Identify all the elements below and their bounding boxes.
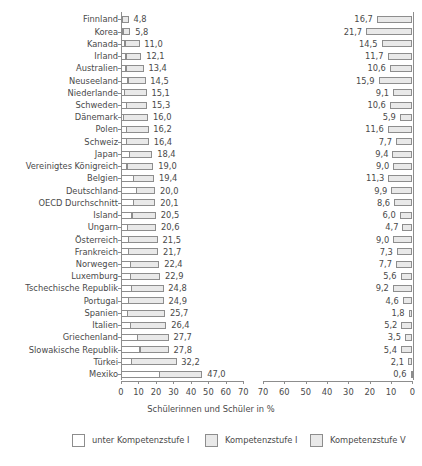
bar-value-label-right: 6,0 xyxy=(362,209,396,221)
chart-row: Türkei32,22,1 xyxy=(0,356,422,368)
bar-value-label-right: 21,7 xyxy=(328,26,362,38)
bar-segment-level-1 xyxy=(127,310,165,317)
bar-segment-level-1 xyxy=(131,285,164,292)
bar-segment-level-1 xyxy=(131,358,176,365)
category-label: Deutschland xyxy=(0,185,118,197)
bar-level-5 xyxy=(377,16,413,23)
bar-value-label-left: 32,2 xyxy=(181,356,199,368)
chart-row: Finnland4,816,7 xyxy=(0,13,422,25)
bar-segment-level-1 xyxy=(124,89,147,96)
category-label: Luxemburg xyxy=(0,270,118,282)
bar-level-5 xyxy=(393,89,412,96)
chart-row: Österreich21,59,0 xyxy=(0,234,422,246)
bar-value-label-left: 20,5 xyxy=(161,209,179,221)
bar-value-label-left: 19,4 xyxy=(159,172,177,184)
bar-segment-under-level-1 xyxy=(121,371,160,378)
bar-value-label-left: 15,1 xyxy=(151,87,169,99)
bar-value-label-left: 13,4 xyxy=(148,62,166,74)
chart-row: Polen16,211,6 xyxy=(0,123,422,135)
bar-value-label-left: 22,9 xyxy=(165,270,183,282)
bar-segment-level-1 xyxy=(127,163,154,170)
chart-row: Frankreich21,77,3 xyxy=(0,246,422,258)
category-label: Italien xyxy=(0,319,118,331)
category-label: Österreich xyxy=(0,234,118,246)
chart-row: Island20,56,0 xyxy=(0,209,422,221)
bar-segment-level-1 xyxy=(133,199,155,206)
x-tick-right xyxy=(348,381,349,384)
bar-value-label-left: 19,0 xyxy=(158,160,176,172)
bar-value-label-left: 27,7 xyxy=(173,331,191,343)
legend-swatch-under-level-1 xyxy=(72,434,85,447)
category-label: Ungarn xyxy=(0,221,118,233)
chart-row: Italien26,45,2 xyxy=(0,319,422,331)
category-label: Finnland xyxy=(0,13,118,25)
bar-segment-level-1 xyxy=(122,16,128,23)
category-label: Vereinigtes Königreich xyxy=(0,160,118,172)
bar-level-5 xyxy=(393,285,413,292)
bar-level-5 xyxy=(379,77,413,84)
bar-value-label-right: 16,7 xyxy=(339,13,373,25)
x-axis-title: Schülerinnen und Schüler in % xyxy=(0,404,422,414)
category-label: Polen xyxy=(0,123,118,135)
chart-row: Mexiko47,00,6 xyxy=(0,368,422,380)
legend-item-2: Kompetenzstufe V xyxy=(310,432,406,448)
bar-value-label-left: 18,4 xyxy=(157,148,175,160)
x-tick-left xyxy=(226,381,227,384)
bar-value-label-right: 9,0 xyxy=(355,234,389,246)
bar-value-label-left: 16,0 xyxy=(153,111,171,123)
bar-segment-level-1 xyxy=(126,138,149,145)
category-label: Norwegen xyxy=(0,258,118,270)
category-label: Belgien xyxy=(0,172,118,184)
category-label: Australien xyxy=(0,62,118,74)
bar-level-5 xyxy=(402,224,412,231)
legend-swatch-level-1 xyxy=(205,434,218,447)
bar-segment-level-1 xyxy=(130,273,160,280)
bar-segment-under-level-1 xyxy=(121,346,140,353)
bar-value-label-right: 9,0 xyxy=(355,160,389,172)
legend-item-1: Kompetenzstufe I xyxy=(205,432,297,448)
chart-row: Tschechische Republik24,89,2 xyxy=(0,282,422,294)
bar-value-label-right: 11,7 xyxy=(350,50,384,62)
bar-value-label-left: 20,1 xyxy=(160,197,178,209)
bar-level-5 xyxy=(401,346,413,353)
x-tick-label-left: 70 xyxy=(233,387,253,397)
category-label: Korea xyxy=(0,26,118,38)
x-tick-right xyxy=(391,381,392,384)
category-label: Mexiko xyxy=(0,368,118,380)
bar-value-label-left: 21,5 xyxy=(163,234,181,246)
bar-segment-level-1 xyxy=(136,187,155,194)
chart-row: Slowakische Republik27,85,4 xyxy=(0,344,422,356)
bar-level-5 xyxy=(400,212,413,219)
bar-segment-level-1 xyxy=(128,236,158,243)
chart-row: Ungarn20,64,7 xyxy=(0,221,422,233)
bar-value-label-right: 9,4 xyxy=(354,148,388,160)
bar-segment-level-1 xyxy=(126,53,142,60)
x-tick-left xyxy=(138,381,139,384)
bar-segment-level-1 xyxy=(128,77,146,84)
bar-segment-under-level-1 xyxy=(121,187,137,194)
x-tick-left xyxy=(121,381,122,384)
chart-row: Irland12,111,7 xyxy=(0,50,422,62)
bar-value-label-right: 9,1 xyxy=(355,87,389,99)
bar-value-label-right: 0,6 xyxy=(373,368,407,380)
bar-value-label-right: 14,5 xyxy=(344,38,378,50)
bar-level-5 xyxy=(403,297,413,304)
bar-segment-level-1 xyxy=(137,334,168,341)
x-tick-left xyxy=(191,381,192,384)
bar-value-label-right: 7,7 xyxy=(358,258,392,270)
chart-row: Griechenland27,73,5 xyxy=(0,331,422,343)
category-label: Schweiz xyxy=(0,136,118,148)
x-tick-left xyxy=(173,381,174,384)
bar-level-5 xyxy=(396,138,412,145)
bar-value-label-right: 8,6 xyxy=(356,197,390,209)
bar-segment-level-1 xyxy=(123,114,148,121)
category-label: Irland xyxy=(0,50,118,62)
x-tick-left xyxy=(156,381,157,384)
legend-item-0: unter Kompetenzstufe I xyxy=(72,432,189,448)
bar-segment-level-1 xyxy=(128,297,164,304)
bar-value-label-right: 2,1 xyxy=(370,356,404,368)
category-label: Dänemark xyxy=(0,111,118,123)
legend-label-under-level-1: unter Kompetenzstufe I xyxy=(92,435,189,445)
bar-value-label-right: 11,3 xyxy=(350,172,384,184)
x-tick-label-right: 30 xyxy=(338,387,358,397)
